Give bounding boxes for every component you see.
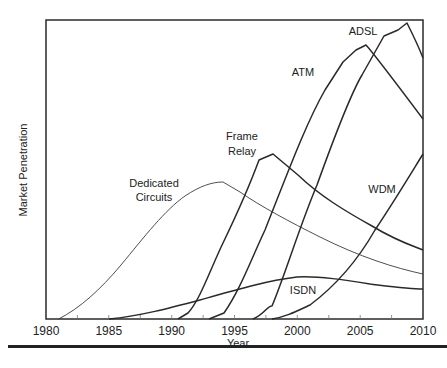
y-axis-title: Market Penetration xyxy=(17,124,29,217)
label-adsl: ADSL xyxy=(349,25,378,37)
x-tick-2005: 2005 xyxy=(347,324,374,338)
label-wdm: WDM xyxy=(368,183,396,195)
label-frame-relay-line1: Frame xyxy=(226,130,258,142)
x-tick-1990: 1990 xyxy=(158,324,185,338)
label-dedicated-circuits-line1: Dedicated xyxy=(129,177,179,189)
x-tick-1985: 1985 xyxy=(95,324,122,338)
divider-rule xyxy=(8,345,447,348)
x-tick-1995: 1995 xyxy=(221,324,248,338)
label-frame-relay-line2: Relay xyxy=(228,145,257,157)
series-dedicated-circuits xyxy=(59,182,423,319)
market-penetration-chart: 1980 1985 1990 1995 2000 2005 2010 Year … xyxy=(0,0,447,368)
x-tick-1980: 1980 xyxy=(33,324,60,338)
label-atm: ATM xyxy=(292,66,314,78)
series-adsl xyxy=(253,23,423,319)
x-axis-tick-labels: 1980 1985 1990 1995 2000 2005 2010 xyxy=(33,324,437,338)
x-tick-2000: 2000 xyxy=(284,324,311,338)
x-tick-2010: 2010 xyxy=(410,324,437,338)
plot-frame xyxy=(46,20,423,319)
label-dedicated-circuits-line2: Circuits xyxy=(136,191,173,203)
label-isdn: ISDN xyxy=(290,284,316,296)
series-isdn xyxy=(109,277,423,319)
